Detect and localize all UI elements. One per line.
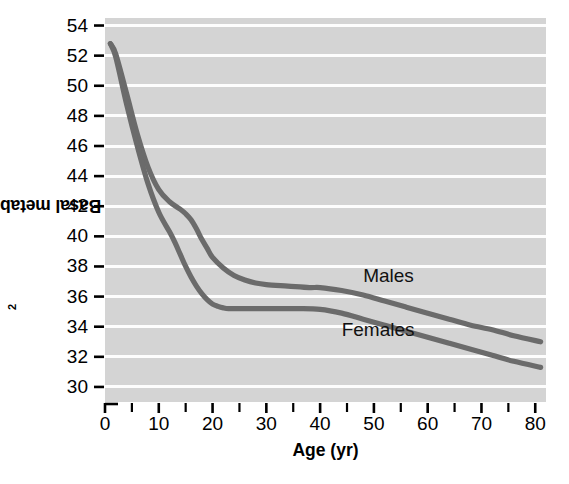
y-tick-label-44: 44 bbox=[44, 165, 88, 187]
y-tick-label-52: 52 bbox=[44, 45, 88, 67]
y-tick-label-46: 46 bbox=[44, 135, 88, 157]
y-tick-label-40: 40 bbox=[44, 225, 88, 247]
basal-metabolism-chart: Basal metabolism (kcal/m2/hr) 3032343638… bbox=[0, 0, 569, 484]
x-tick-label-70: 70 bbox=[459, 413, 503, 435]
y-tick-label-36: 36 bbox=[44, 286, 88, 308]
y-tick-label-48: 48 bbox=[44, 105, 88, 127]
series-lines bbox=[105, 18, 546, 402]
y-tick-label-32: 32 bbox=[44, 346, 88, 368]
y-tick-label-34: 34 bbox=[44, 316, 88, 338]
y-axis-title: Basal metabolism (kcal/m2/hr) bbox=[0, 0, 36, 410]
x-tick-label-80: 80 bbox=[513, 413, 557, 435]
x-tick-label-20: 20 bbox=[191, 413, 235, 435]
x-axis-tick-labels: 01020304050607080 bbox=[0, 413, 569, 443]
x-tick-label-10: 10 bbox=[137, 413, 181, 435]
plot-area: MalesFemales bbox=[105, 18, 546, 402]
y-axis-title-superscript: 2 bbox=[7, 304, 19, 310]
y-tick-label-54: 54 bbox=[44, 15, 88, 37]
x-tick-label-30: 30 bbox=[244, 413, 288, 435]
x-tick-label-40: 40 bbox=[298, 413, 342, 435]
y-tick-label-38: 38 bbox=[44, 255, 88, 277]
x-tick-label-60: 60 bbox=[406, 413, 450, 435]
y-tick-label-50: 50 bbox=[44, 75, 88, 97]
series-label-males: Males bbox=[363, 265, 414, 287]
y-axis-tick-labels: 30323436384042444648505254 bbox=[36, 0, 88, 484]
x-tick-label-50: 50 bbox=[352, 413, 396, 435]
x-axis-title: Age (yr) bbox=[105, 440, 546, 461]
series-line-males bbox=[110, 44, 540, 342]
y-tick-label-42: 42 bbox=[44, 195, 88, 217]
series-label-females: Females bbox=[342, 319, 415, 341]
y-tick-label-30: 30 bbox=[44, 376, 88, 398]
x-tick-label-0: 0 bbox=[83, 413, 127, 435]
